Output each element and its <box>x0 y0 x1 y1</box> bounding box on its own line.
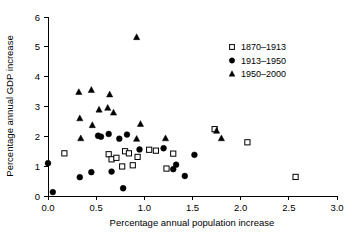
data-point <box>120 185 126 191</box>
data-point <box>89 122 95 128</box>
x-tick-label: 3.0 <box>330 202 343 213</box>
plot-area: 0.00.51.01.52.02.53.0 0123456 1870–19131… <box>0 0 357 235</box>
data-point <box>62 151 67 156</box>
data-point <box>161 145 167 151</box>
data-point <box>147 147 152 152</box>
legend-label: 1913–1950 <box>241 56 286 66</box>
x-axis-title: Percentage annual population increase <box>110 217 275 228</box>
data-point <box>98 134 104 140</box>
data-point <box>77 115 83 121</box>
x-axis-ticks: 0.00.51.01.52.02.53.0 <box>41 196 343 213</box>
data-point <box>173 162 179 168</box>
data-point <box>45 160 51 166</box>
y-tick-label: 3 <box>35 101 40 112</box>
y-tick-label: 5 <box>35 41 40 52</box>
data-point <box>105 105 111 111</box>
data-point <box>120 164 125 169</box>
legend-label: 1950–2000 <box>241 69 286 79</box>
data-point <box>106 131 112 137</box>
data-point <box>88 169 94 175</box>
chart-legend: 1870–19131913–19501950–2000 <box>229 42 286 79</box>
y-tick-label: 0 <box>35 191 40 202</box>
x-tick-label: 2.5 <box>282 202 295 213</box>
marker-open-square <box>230 45 235 50</box>
data-point <box>162 135 168 141</box>
data-point <box>245 140 250 145</box>
data-point <box>171 151 176 156</box>
y-tick-label: 4 <box>35 71 40 82</box>
data-point <box>192 152 198 158</box>
y-tick-label: 6 <box>35 12 40 23</box>
y-tick-label: 1 <box>35 161 40 172</box>
x-tick-label: 0.5 <box>90 202 103 213</box>
data-point <box>107 91 113 97</box>
series-1913-1950 <box>45 131 197 195</box>
scatter-chart: 0.00.51.01.52.02.53.0 0123456 1870–19131… <box>0 0 357 235</box>
y-tick-label: 2 <box>35 131 40 142</box>
data-point <box>76 89 82 95</box>
data-point <box>164 166 169 171</box>
data-point <box>114 155 119 160</box>
data-point <box>88 87 94 93</box>
data-point <box>126 151 131 156</box>
data-point <box>137 147 143 153</box>
data-point <box>109 169 115 175</box>
marker-filled-triangle <box>229 71 235 76</box>
series-1950-2000 <box>76 34 225 142</box>
y-axis-ticks: 0123456 <box>35 12 48 202</box>
data-point <box>116 136 122 142</box>
data-point <box>182 173 188 179</box>
data-point <box>137 121 143 127</box>
x-tick-label: 0.0 <box>41 202 54 213</box>
x-tick-label: 1.5 <box>186 202 199 213</box>
data-point <box>130 163 135 168</box>
x-tick-label: 1.0 <box>138 202 151 213</box>
data-point <box>153 148 158 153</box>
data-point <box>135 154 140 159</box>
data-point <box>50 189 56 195</box>
data-point <box>106 152 111 157</box>
data-point <box>78 135 84 141</box>
data-point <box>293 174 298 179</box>
data-point <box>134 136 140 142</box>
data-point <box>218 135 224 141</box>
data-point <box>96 106 102 112</box>
data-point <box>110 109 116 115</box>
data-point <box>124 132 130 138</box>
data-point <box>134 34 140 40</box>
data-point <box>77 174 83 180</box>
legend-label: 1870–1913 <box>241 42 286 52</box>
y-axis-title: Percentage annual GDP increase <box>4 35 15 176</box>
marker-filled-circle <box>229 58 234 63</box>
x-tick-label: 2.0 <box>234 202 247 213</box>
